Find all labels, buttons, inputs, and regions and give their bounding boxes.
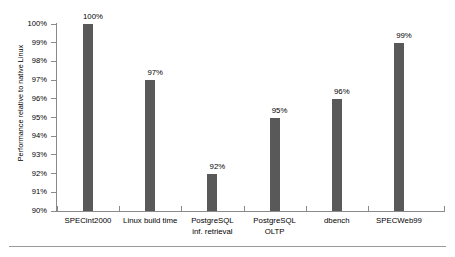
y-axis-tick-mark	[51, 173, 56, 174]
y-axis-tick-label: 91%	[32, 187, 47, 197]
x-axis-line	[56, 211, 445, 212]
y-axis-tick: 91%	[0, 187, 56, 197]
bar-value-label: 99%	[374, 31, 434, 41]
y-axis-tick: 99%	[0, 38, 56, 48]
bar-value-label: 96%	[312, 87, 372, 97]
y-axis-tick-mark	[51, 98, 56, 99]
x-axis-category-label-line: SPECWeb99	[349, 216, 449, 227]
x-axis-tick-mark	[57, 206, 58, 212]
bar	[207, 174, 217, 211]
y-axis-tick: 100%	[0, 19, 56, 29]
bottom-divider-rule	[9, 246, 446, 247]
bar-chart-figure: Performance relative to native Linux 100…	[0, 0, 455, 257]
y-axis-tick: 93%	[0, 150, 56, 160]
y-axis-tick-mark	[51, 80, 56, 81]
y-axis-tick-label: 94%	[32, 131, 47, 141]
y-axis-line	[56, 23, 57, 212]
x-axis-end-tick	[444, 206, 445, 212]
x-axis-tick-mark	[244, 206, 245, 212]
y-axis-tick: 94%	[0, 131, 56, 141]
x-axis-tick-mark	[306, 206, 307, 212]
y-axis-tick-mark	[51, 136, 56, 137]
y-axis-tick-label: 93%	[32, 150, 47, 160]
y-axis-tick-mark	[51, 24, 56, 25]
y-axis-tick-mark	[51, 192, 56, 193]
y-axis-tick-mark	[51, 42, 56, 43]
bar-value-label: 100%	[63, 12, 123, 22]
bar-value-label: 95%	[250, 106, 310, 116]
y-axis-tick-label: 90%	[32, 206, 47, 216]
y-axis-tick: 92%	[0, 169, 56, 179]
y-axis-tick: 95%	[0, 113, 56, 123]
x-axis-category-label-line: OLTP	[225, 227, 325, 238]
y-axis-tick-label: 100%	[28, 19, 47, 29]
x-axis-category-label: SPECWeb99	[349, 216, 449, 227]
bar-value-label: 92%	[187, 162, 247, 172]
bar	[332, 99, 342, 211]
x-axis-tick-mark	[119, 206, 120, 212]
bar	[270, 118, 280, 212]
y-axis-tick: 97%	[0, 75, 56, 85]
y-axis-tick-label: 99%	[32, 38, 47, 48]
y-axis-tick-mark	[51, 61, 56, 62]
y-axis-tick-label: 97%	[32, 75, 47, 85]
y-axis-tick-mark	[51, 117, 56, 118]
bar	[394, 43, 404, 211]
y-axis-tick-mark	[51, 211, 56, 212]
y-axis-tick-label: 98%	[32, 56, 47, 66]
y-axis-tick: 96%	[0, 94, 56, 104]
y-axis-tick-mark	[51, 154, 56, 155]
x-axis-tick-mark	[368, 206, 369, 212]
y-axis-tick-label: 96%	[32, 94, 47, 104]
bar	[83, 24, 93, 211]
y-axis-tick-label: 92%	[32, 169, 47, 179]
y-axis-tick-label: 95%	[32, 113, 47, 123]
y-axis-tick: 90%	[0, 206, 56, 216]
y-axis-tick: 98%	[0, 56, 56, 66]
bar	[145, 80, 155, 211]
bar-value-label: 97%	[125, 68, 185, 78]
x-axis-tick-mark	[181, 206, 182, 212]
